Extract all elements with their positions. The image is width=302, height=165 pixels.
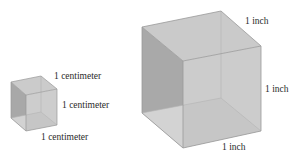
large-cube-front-face (183, 46, 261, 148)
small-cube (11, 76, 57, 131)
diagram-canvas: 1 centimeter 1 centimeter 1 centimeter 1… (0, 0, 302, 165)
small-cube-top-label: 1 centimeter (54, 71, 102, 81)
small-cube-right-label: 1 centimeter (62, 100, 110, 110)
small-cube-front-face (26, 89, 57, 131)
large-cube-bottom-label: 1 inch (222, 142, 246, 152)
large-cube (142, 11, 261, 148)
large-cube-right-label: 1 inch (265, 84, 289, 94)
small-cube-bottom-label: 1 centimeter (41, 132, 89, 142)
large-cube-top-label: 1 inch (245, 16, 269, 26)
